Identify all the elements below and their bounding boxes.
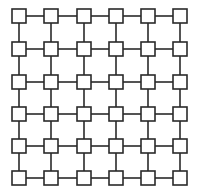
- grid-node-r1-c5: [173, 42, 187, 56]
- grid-node-r2-c3: [109, 75, 123, 89]
- grid-node-r4-c3: [109, 139, 123, 153]
- grid-node-r3-c2: [77, 107, 91, 121]
- grid-node-r5-c0: [12, 171, 26, 185]
- grid-node-r0-c2: [77, 9, 91, 23]
- grid-node-r1-c4: [141, 42, 155, 56]
- grid-node-r5-c2: [77, 171, 91, 185]
- grid-node-r2-c2: [77, 75, 91, 89]
- grid-node-r3-c0: [12, 107, 26, 121]
- grid-node-r0-c3: [109, 9, 123, 23]
- grid-node-r0-c0: [12, 9, 26, 23]
- grid-node-r5-c1: [44, 171, 58, 185]
- grid-node-r5-c4: [141, 171, 155, 185]
- grid-node-r2-c1: [44, 75, 58, 89]
- grid-node-r3-c5: [173, 107, 187, 121]
- grid-node-r2-c0: [12, 75, 26, 89]
- grid-node-r5-c3: [109, 171, 123, 185]
- grid-node-r5-c5: [173, 171, 187, 185]
- mesh-grid-diagram: [0, 0, 200, 196]
- grid-node-r4-c5: [173, 139, 187, 153]
- grid-node-r0-c5: [173, 9, 187, 23]
- grid-node-r4-c2: [77, 139, 91, 153]
- grid-node-r0-c1: [44, 9, 58, 23]
- grid-node-r2-c5: [173, 75, 187, 89]
- grid-node-r1-c0: [12, 42, 26, 56]
- grid-node-r1-c1: [44, 42, 58, 56]
- grid-node-r3-c1: [44, 107, 58, 121]
- grid-node-r4-c1: [44, 139, 58, 153]
- grid-edges: [19, 16, 180, 178]
- grid-node-r2-c4: [141, 75, 155, 89]
- grid-node-r4-c4: [141, 139, 155, 153]
- grid-node-r4-c0: [12, 139, 26, 153]
- grid-node-r3-c3: [109, 107, 123, 121]
- grid-nodes: [12, 9, 187, 185]
- grid-node-r0-c4: [141, 9, 155, 23]
- grid-node-r1-c2: [77, 42, 91, 56]
- grid-node-r3-c4: [141, 107, 155, 121]
- grid-node-r1-c3: [109, 42, 123, 56]
